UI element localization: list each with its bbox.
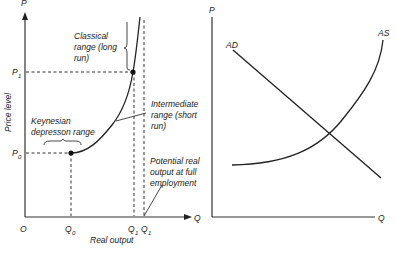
classical-range-label: Classical range (long run) [74,31,119,63]
potential-pointer [144,185,162,216]
left-y-arrow-icon [22,12,28,20]
p0-subscript: 0 [18,154,22,160]
aggregate-demand-line [233,50,381,178]
as-label: AS [377,28,390,38]
left-q-axis-label: Q [194,213,201,223]
y-axis-title: Price level [3,92,13,132]
q0-subscript: 0 [72,230,76,236]
q1a-subscript: 1 [135,230,138,236]
classical-brace [124,22,130,70]
right-q-axis-label: Q [378,213,385,223]
aggregate-supply-curve-right [232,40,383,165]
keynesian-brace [44,139,81,145]
keynesian-range-label: Keynesian depresson range [31,116,95,137]
potential-output-label: Potential real output at full employment [150,156,202,188]
q0-label: Q [65,224,72,234]
q1b-subscript: 1 [148,230,151,236]
left-diagram: P Q O P 1 P 0 Q 0 Q 1 Q 1 Real output Pr… [3,0,202,245]
ad-label: AD [225,40,238,50]
point-p0-q0 [68,150,73,155]
left-p-axis-label: P [21,0,27,8]
right-p-axis-label: P [209,5,215,15]
point-p1-q1 [130,69,135,74]
origin-label: O [20,224,27,234]
q1a-label: Q [128,224,135,234]
diagram-canvas: P Q O P 1 P 0 Q 0 Q 1 Q 1 Real output Pr… [0,0,397,253]
q1b-label: Q [141,224,148,234]
p1-subscript: 1 [18,73,21,79]
left-x-arrow-icon [184,214,192,220]
right-diagram: P Q AD AS [209,5,390,223]
intermediate-pointer [116,113,146,121]
intermediate-range-label: Intermediate range (short run) [151,99,201,131]
x-axis-title: Real output [90,235,134,245]
